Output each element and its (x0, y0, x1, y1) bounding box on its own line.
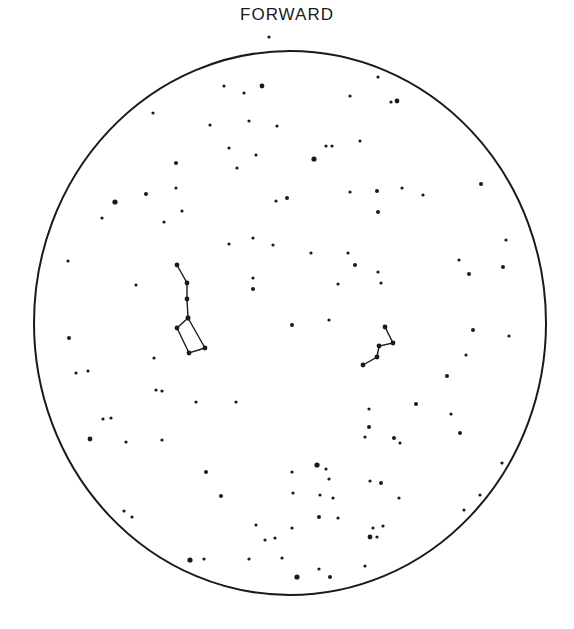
star (421, 193, 424, 196)
star (353, 263, 357, 267)
star (501, 265, 505, 269)
star (202, 557, 205, 560)
star (290, 526, 293, 529)
star (381, 524, 384, 527)
star (330, 144, 333, 147)
star (392, 436, 396, 440)
star (86, 369, 89, 372)
star (363, 435, 366, 438)
star (260, 84, 265, 89)
star (375, 355, 380, 360)
star (462, 508, 465, 511)
star (449, 412, 452, 415)
star (227, 242, 230, 245)
star (478, 493, 481, 496)
star (376, 210, 380, 214)
star (363, 564, 366, 567)
star (391, 341, 396, 346)
star (336, 516, 339, 519)
star (290, 323, 294, 327)
star (234, 400, 237, 403)
star (379, 281, 382, 284)
star (271, 243, 274, 246)
star (67, 336, 71, 340)
star (400, 186, 403, 189)
stars (66, 35, 510, 579)
star (371, 526, 374, 529)
star (309, 251, 312, 254)
star (280, 556, 283, 559)
star (247, 119, 250, 122)
star (327, 477, 330, 480)
star (479, 182, 483, 186)
star (314, 462, 319, 467)
star (122, 509, 125, 512)
star (389, 100, 392, 103)
star (254, 523, 257, 526)
star (174, 186, 177, 189)
constellation-big-dipper (177, 265, 205, 353)
star (291, 491, 294, 494)
star (367, 425, 371, 429)
constellation-lines (175, 263, 396, 368)
star (367, 407, 370, 410)
star (368, 535, 373, 540)
star (219, 494, 223, 498)
star (376, 270, 379, 273)
star (361, 363, 366, 368)
star (275, 124, 278, 127)
star (175, 263, 180, 268)
star (445, 374, 449, 378)
star (162, 220, 165, 223)
star (208, 123, 211, 126)
star (151, 111, 154, 114)
field-of-view-circle (34, 51, 546, 595)
star (160, 438, 163, 441)
star (174, 161, 178, 165)
star (273, 536, 276, 539)
star (504, 238, 507, 241)
star (274, 199, 277, 202)
star (290, 470, 293, 473)
star (185, 281, 190, 286)
star (204, 470, 208, 474)
star (222, 84, 225, 87)
star (152, 356, 155, 359)
star (348, 190, 351, 193)
star (235, 166, 238, 169)
star (467, 272, 471, 276)
star (471, 328, 475, 332)
star (348, 94, 351, 97)
star (187, 557, 192, 562)
star (109, 416, 112, 419)
star-chart (0, 0, 574, 629)
star (251, 236, 254, 239)
star (187, 351, 192, 356)
star (327, 318, 330, 321)
star (358, 139, 361, 142)
star (263, 538, 266, 541)
star (194, 400, 197, 403)
star (101, 417, 104, 420)
star (377, 344, 382, 349)
star (324, 144, 327, 147)
star (317, 515, 321, 519)
star (458, 431, 462, 435)
star (376, 75, 379, 78)
star (398, 441, 401, 444)
star (134, 283, 137, 286)
star (175, 326, 180, 331)
star (311, 156, 316, 161)
star (383, 325, 388, 330)
star (154, 388, 157, 391)
star (375, 535, 378, 538)
star (227, 146, 230, 149)
star (112, 199, 117, 204)
star (242, 91, 245, 94)
star (368, 479, 371, 482)
star (397, 496, 400, 499)
star (375, 189, 379, 193)
star (328, 575, 332, 579)
star (379, 481, 383, 485)
star (66, 259, 69, 262)
